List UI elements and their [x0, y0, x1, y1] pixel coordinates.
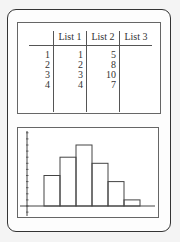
index-header: [29, 31, 54, 46]
table-row: 115: [29, 46, 152, 61]
list3-header: List 3: [120, 31, 153, 46]
histogram-screen: [17, 127, 159, 218]
histogram-bar: [76, 145, 92, 206]
table-header-row: List 1 List 2 List 3: [29, 31, 152, 46]
table-row: 447: [29, 80, 152, 90]
list-table: List 1 List 2 List 3 115 228 3310 447: [29, 31, 152, 112]
list-editor-screen: List 1 List 2 List 3 115 228 3310 447: [17, 22, 161, 114]
histogram-bar: [108, 182, 124, 206]
histogram-bar: [92, 163, 108, 206]
histogram-bar: [124, 200, 140, 206]
list2-header: List 2: [87, 31, 120, 46]
list1-header: List 1: [54, 31, 87, 46]
histogram-chart: [18, 128, 160, 219]
histogram-bar: [60, 157, 76, 206]
histogram-bar: [44, 176, 60, 207]
